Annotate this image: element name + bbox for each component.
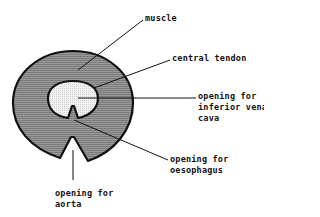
label-ivc-line3: cava <box>198 113 264 124</box>
label-ivc-line1: opening for <box>198 91 264 102</box>
label-aorta-line1: opening for <box>55 188 114 199</box>
label-central-tendon: central tendon <box>172 53 246 64</box>
label-muscle: muscle <box>145 13 177 24</box>
label-muscle-text: muscle <box>145 13 177 23</box>
label-ivc-line2: inferior vena <box>198 102 264 113</box>
label-oesophagus-line1: opening for <box>170 154 229 165</box>
label-inferior-vena-cava: opening for inferior vena cava <box>198 91 264 124</box>
label-oesophagus: opening for oesophagus <box>170 154 229 176</box>
label-aorta-line2: aorta <box>55 199 114 210</box>
label-oesophagus-line2: oesophagus <box>170 165 229 176</box>
label-central-tendon-text: central tendon <box>172 53 246 63</box>
label-aorta: opening for aorta <box>55 188 114 210</box>
